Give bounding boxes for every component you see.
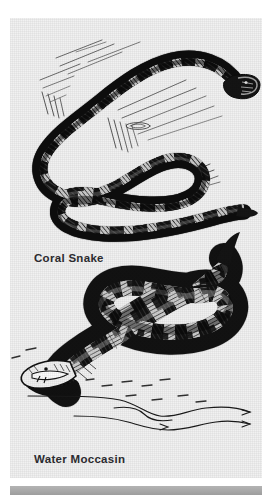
- coral-snake-head: [224, 74, 261, 98]
- water-moccasin-caption: Water Moccasin: [34, 453, 125, 465]
- coral-snake-caption: Coral Snake: [34, 252, 104, 264]
- scanned-page: Coral Snake: [0, 0, 279, 495]
- illustration-plate: Coral Snake: [10, 18, 262, 478]
- coral-snake-tail: [236, 208, 258, 217]
- page-footer-bar: [10, 486, 262, 495]
- coral-snake-illustration: [10, 22, 262, 250]
